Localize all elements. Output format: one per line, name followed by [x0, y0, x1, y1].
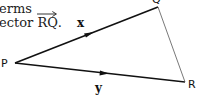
- vector-label-y: y: [94, 81, 103, 95]
- triangle-diagram: P Q R x y: [0, 0, 200, 98]
- segment-qr-line: [158, 7, 185, 82]
- vector-label-x: x: [77, 16, 85, 30]
- vector-x-arrowhead-icon: [84, 32, 94, 38]
- point-label-q: Q: [152, 0, 161, 6]
- point-label-p: P: [1, 57, 8, 70]
- point-label-r: R: [188, 78, 196, 91]
